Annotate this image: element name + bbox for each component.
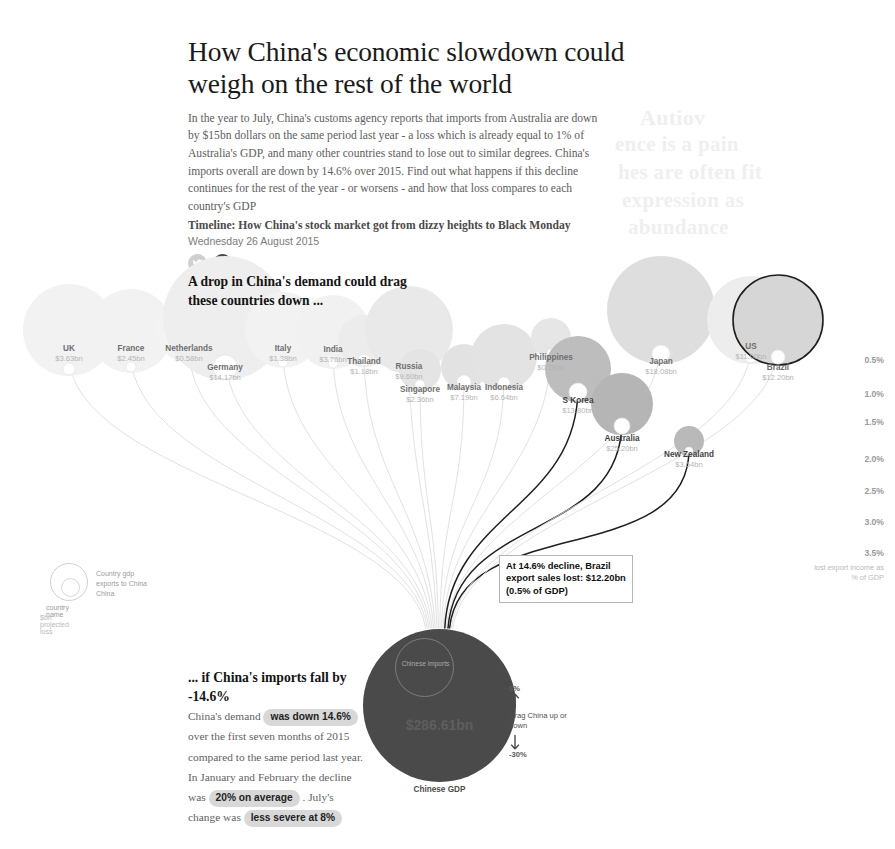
tooltip-line-3: (0.5% of GDP) (506, 585, 627, 597)
country-name-india: India (323, 345, 342, 354)
bubble-label-germany: Germany$14.17bn (175, 363, 275, 383)
bubble-label-netherlands: Netherlands$0.58bn (139, 344, 239, 364)
bubble-philippines[interactable] (531, 318, 571, 358)
tooltip-line-2: export sales lost: $12.20bn (506, 572, 627, 584)
country-loss-brazil: $12.20bn (728, 373, 828, 382)
bubble-label-us: US$11.00bn (701, 342, 801, 362)
bubble-label-philippines: Philippines$0.78bn (501, 353, 601, 373)
standfirst-text: In the year to July, China's customs age… (188, 110, 603, 216)
y-axis-tick-1: 1.0% (864, 389, 884, 399)
tooltip-brazil: At 14.6% decline, Brazil export sales lo… (499, 555, 633, 603)
country-name-brazil: Brazil (767, 363, 789, 372)
page-title: How China's economic slowdown could weig… (188, 36, 688, 101)
y-axis-tick-2: 1.5% (864, 417, 884, 427)
twitter-icon[interactable] (188, 254, 207, 273)
legend-descriptions: Country gdp exports to China China (96, 569, 147, 599)
country-name-us: US (745, 342, 756, 351)
arrow-down-icon (509, 734, 521, 750)
highlight-july-change[interactable]: less severe at 8% (244, 810, 342, 827)
country-name-uk: UK (63, 344, 75, 353)
tooltip-line-1: At 14.6% decline, Brazil (506, 560, 627, 572)
bubble-gdp-philippines[interactable] (531, 318, 571, 358)
country-name-japan: Japan (649, 357, 673, 366)
connector-malaysia (440, 380, 464, 628)
bubble-label-russia: Russia$9.60bn (359, 362, 459, 382)
social-share-group (188, 254, 688, 273)
drag-bottom-value: -30% (509, 750, 579, 759)
highlight-average-pct[interactable]: 20% on average (209, 790, 300, 807)
legend-exports-label: exports to China (96, 579, 147, 589)
arrow-up-icon (509, 693, 521, 709)
drag-top-value: 0% (509, 684, 579, 693)
legend-gdp-label: Country gdp (96, 569, 147, 579)
country-name-australia: Australia (604, 434, 639, 443)
china-imports-value: $286.61bn (363, 717, 516, 733)
country-name-new-zealand: New Zealand (664, 450, 714, 459)
bubble-label-s-korea: S Korea$13.80bn (528, 396, 628, 416)
china-imports-label: Chinese imports (396, 660, 455, 668)
legend-exports-circle (61, 578, 80, 597)
y-axis-caption: lost export income as % of GDP (812, 563, 884, 582)
china-gdp-bubble[interactable]: Chinese imports $286.61bn (363, 629, 516, 782)
country-loss-japan: $18.08bn (611, 367, 711, 376)
bubble-label-new-zealand: New Zealand$3.54bn (639, 450, 739, 470)
y-axis-tick-6: 3.5% (864, 548, 884, 558)
country-name-netherlands: Netherlands (165, 344, 212, 353)
connector-singapore (420, 382, 438, 628)
legend-gdp-circle (50, 563, 88, 601)
infographic-stage: Autiov ence is a pain hes are often fit … (0, 0, 895, 849)
y-axis-tick-4: 2.5% (864, 486, 884, 496)
bubble-exports-australia[interactable] (614, 418, 630, 434)
publication-date: Wednesday 26 August 2015 (188, 235, 688, 247)
country-name-germany: Germany (207, 363, 243, 372)
facebook-icon[interactable] (213, 254, 232, 273)
country-loss-new-zealand: $3.54bn (639, 460, 739, 469)
annotation-body-part1: China's demand (188, 710, 261, 722)
drag-instruction: Drag China up or down (509, 711, 579, 732)
country-name-indonesia: Indonesia (485, 383, 523, 392)
bubble-exports-uk[interactable] (63, 363, 75, 375)
article-header: How China's economic slowdown could weig… (188, 36, 688, 273)
country-loss-s-korea: $13.80bn (528, 406, 628, 415)
china-gdp-caption: Chinese GDP (363, 785, 516, 794)
y-axis-tick-0: 0.5% (864, 355, 884, 365)
legend-exports-to: China (96, 589, 147, 599)
bubble-label-brazil: Brazil$12.20bn (728, 363, 828, 383)
annotation-body: China's demand was down 14.6% over the f… (188, 706, 364, 828)
china-imports-ring: Chinese imports (395, 638, 454, 697)
timeline-link[interactable]: Timeline: How China's stock market got f… (188, 217, 618, 234)
y-axis-tick-5: 3.0% (864, 517, 884, 527)
highlight-decline-pct[interactable]: was down 14.6% (263, 709, 357, 726)
legend-loss-label: $bn projected loss (40, 614, 69, 635)
country-name-philippines: Philippines (529, 353, 573, 362)
y-axis-tick-3: 2.0% (864, 454, 884, 464)
country-loss-us: $11.00bn (701, 352, 801, 361)
country-loss-philippines: $0.78bn (501, 363, 601, 372)
country-loss-germany: $14.17bn (175, 373, 275, 382)
country-name-russia: Russia (396, 362, 423, 371)
bubble-label-japan: Japan$18.08bn (611, 357, 711, 377)
annotation-bottom-title: ... if China's imports fall by -14.6% (188, 668, 388, 707)
connector-indonesia (442, 375, 504, 628)
annotation-top-title: A drop in China's demand could drag thes… (188, 272, 428, 311)
country-name-s-korea: S Korea (563, 396, 594, 405)
country-loss-russia: $9.60bn (359, 372, 459, 381)
drag-control[interactable]: 0% Drag China up or down -30% (509, 684, 579, 759)
